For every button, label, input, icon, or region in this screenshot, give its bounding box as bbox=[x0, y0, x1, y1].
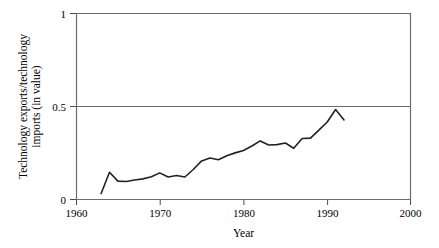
y-axis-title-line2: imports (in value) bbox=[30, 65, 43, 148]
y-axis-title-line1: Technology exports/technology bbox=[17, 34, 30, 179]
x-tick-label-1960: 1960 bbox=[66, 207, 89, 219]
x-tick-label-1990: 1990 bbox=[317, 207, 340, 219]
y-tick-label-1: 1 bbox=[61, 8, 67, 20]
x-tick-label-1980: 1980 bbox=[233, 207, 256, 219]
x-tick-label-2000: 2000 bbox=[400, 207, 423, 219]
y-tick-label-0: 0 bbox=[61, 194, 67, 206]
x-tick-label-1970: 1970 bbox=[149, 207, 172, 219]
line-chart: 0 0.5 1 1960 1970 1980 1990 2000 Year Te… bbox=[0, 0, 439, 248]
x-axis-title: Year bbox=[233, 227, 254, 239]
y-tick-label-0.5: 0.5 bbox=[52, 101, 66, 113]
chart-figure: 0 0.5 1 1960 1970 1980 1990 2000 Year Te… bbox=[0, 0, 439, 248]
